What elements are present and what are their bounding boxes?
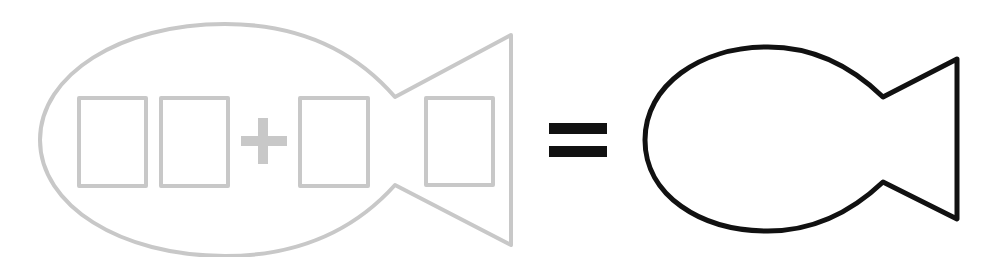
addend-digit-box[interactable]: [300, 98, 368, 186]
right-fish-outline[interactable]: [645, 47, 957, 231]
ones-digit-box[interactable]: [161, 98, 228, 186]
tens-digit-box[interactable]: [79, 98, 146, 186]
fish-equation-diagram: [0, 0, 1000, 257]
tail-box[interactable]: [426, 98, 493, 185]
equals-icon: [549, 123, 607, 157]
plus-icon: [241, 118, 287, 164]
